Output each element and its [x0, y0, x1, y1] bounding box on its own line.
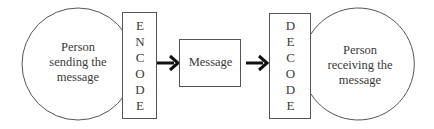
receiver-label-line: Person: [312, 43, 408, 58]
receiver-label: Person receiving the message: [312, 43, 408, 88]
decode-letter: D: [286, 19, 295, 33]
decode-letter: O: [286, 67, 295, 81]
decode-letter: E: [287, 35, 295, 49]
arrow-message-to-decode: [246, 56, 267, 70]
receiver-label-line: receiving the: [312, 58, 408, 73]
encode-letter: C: [136, 51, 145, 65]
receiver-label-line: message: [312, 73, 408, 88]
encode-label: E N C O D E: [123, 19, 157, 113]
encode-letter: D: [135, 83, 144, 97]
sender-label-line: message: [30, 70, 126, 85]
decode-letter: D: [286, 83, 295, 97]
sender-label: Person sending the message: [30, 40, 126, 85]
decode-letter: C: [286, 51, 295, 65]
encode-letter: E: [136, 19, 144, 33]
decode-letter: E: [287, 99, 295, 113]
sender-label-line: Person: [30, 40, 126, 55]
encode-letter: N: [135, 35, 144, 49]
message-label: Message: [180, 55, 241, 70]
sender-label-line: sending the: [30, 55, 126, 70]
arrow-encode-to-message: [157, 56, 178, 70]
encode-letter: E: [136, 99, 144, 113]
decode-label: D E C O D E: [270, 19, 311, 113]
encode-letter: O: [135, 67, 144, 81]
